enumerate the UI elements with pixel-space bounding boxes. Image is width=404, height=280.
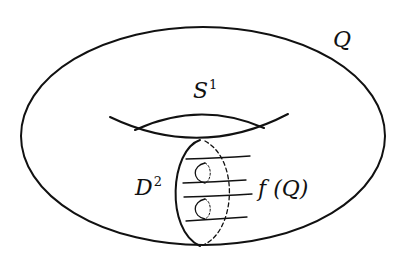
torus-outer-boundary bbox=[21, 27, 385, 245]
disc-front-edge bbox=[176, 140, 200, 246]
label-torus-q: Q bbox=[333, 29, 351, 51]
label-circle-s1: S1 bbox=[193, 80, 217, 102]
label-disc-d2: D2 bbox=[135, 177, 162, 199]
torus-hole-upper-arc bbox=[135, 114, 264, 130]
fq-strand-1 bbox=[186, 156, 250, 159]
fq-tube-2-front bbox=[195, 199, 205, 219]
fq-strand-4 bbox=[186, 217, 247, 221]
fq-tube-1-front bbox=[195, 163, 205, 183]
label-image-fq: f (Q) bbox=[258, 178, 308, 200]
disc-back-edge bbox=[205, 141, 229, 244]
fq-strand-3 bbox=[184, 194, 252, 197]
fq-tube-1-back bbox=[205, 163, 210, 183]
fq-tube-2-back bbox=[205, 199, 210, 219]
fq-strand-2 bbox=[183, 180, 246, 183]
torus-diagram: Q S1 D2 f (Q) bbox=[0, 0, 404, 280]
